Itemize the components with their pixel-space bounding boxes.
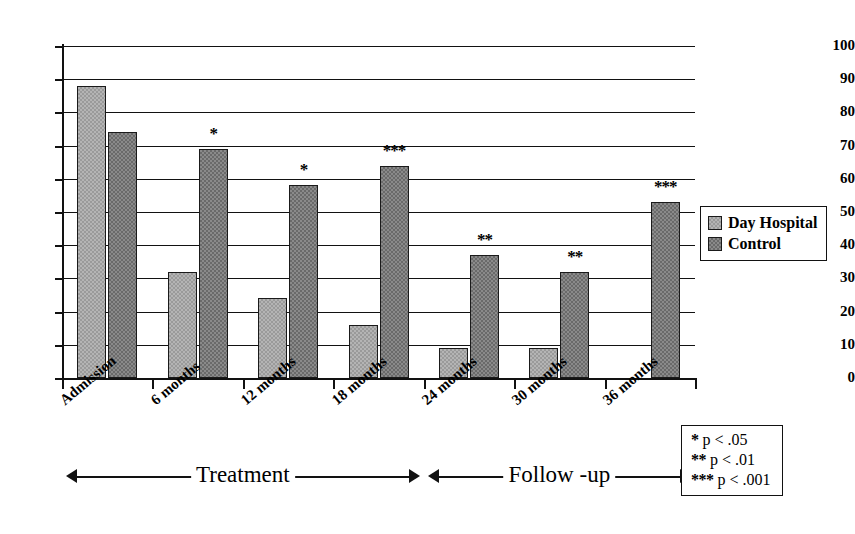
significance-note-row: *** p < .001 [691, 470, 771, 490]
y-axis-tick-label: 20 [803, 304, 855, 319]
gridline [62, 212, 695, 213]
significance-threshold-text: p < .05 [699, 431, 748, 448]
x-axis-tick [333, 378, 335, 389]
gridline [62, 179, 695, 180]
significance-marker: * [209, 125, 217, 142]
y-axis-tick-label: 10 [803, 337, 855, 352]
phase-arrow-treatment: Treatment [66, 463, 420, 489]
bar-chart-figure: 0102030405060708090100 ************ Admi… [0, 0, 855, 534]
phase-arrow-follow-up: Follow -up [428, 463, 691, 489]
x-axis-tick [62, 378, 64, 389]
legend-swatch-icon [708, 216, 722, 230]
arrow-right-icon [409, 469, 420, 483]
bar-day-hospital-admission [77, 86, 106, 378]
bar-control-36-months [651, 202, 680, 378]
gridline [62, 146, 695, 147]
significance-marker: ** [477, 231, 492, 248]
bar-control-12-months [289, 185, 318, 378]
legend-swatch-icon [708, 237, 722, 251]
gridline [62, 278, 695, 279]
x-axis-tick [605, 378, 607, 389]
x-axis-tick [152, 378, 154, 389]
gridline [62, 79, 695, 80]
significance-marker: *** [654, 178, 677, 195]
y-axis-tick-label: 80 [803, 104, 855, 119]
y-axis-tick-label: 100 [803, 38, 855, 53]
significance-marker: ** [567, 248, 582, 265]
significance-threshold-text: p < .01 [706, 451, 755, 468]
bar-control-admission [108, 132, 137, 378]
y-axis-tick-label: 90 [803, 71, 855, 86]
gridline [62, 46, 695, 47]
significance-threshold-text: p < .001 [714, 471, 771, 488]
x-axis-tick [424, 378, 426, 389]
x-axis-line [62, 378, 697, 380]
significance-marker: * [300, 161, 308, 178]
significance-stars: *** [691, 471, 714, 488]
significance-note-box: * p < .05** p < .01*** p < .001 [681, 425, 783, 496]
y-axis-tick-label: 70 [803, 138, 855, 153]
y-axis-tick-label: 0 [803, 370, 855, 385]
chart-legend: Day HospitalControl [700, 206, 827, 261]
significance-note-row: * p < .05 [691, 430, 771, 450]
phase-label: Follow -up [504, 462, 616, 488]
significance-note-row: ** p < .01 [691, 450, 771, 470]
plot-area [62, 46, 695, 378]
legend-item-day-hospital[interactable]: Day Hospital [708, 212, 817, 233]
y-axis-tick-label: 60 [803, 171, 855, 186]
legend-item-control[interactable]: Control [708, 233, 817, 254]
significance-stars: * [691, 431, 699, 448]
gridline [62, 112, 695, 113]
bar-control-6-months [199, 149, 228, 378]
legend-label: Control [728, 235, 781, 252]
significance-marker: *** [383, 142, 406, 159]
significance-stars: ** [691, 451, 706, 468]
gridline [62, 312, 695, 313]
x-axis-tick [514, 378, 516, 389]
bar-control-18-months [380, 166, 409, 378]
x-axis-tick [695, 378, 697, 389]
gridline [62, 245, 695, 246]
gridline [62, 345, 695, 346]
y-axis-tick-label: 30 [803, 270, 855, 285]
legend-label: Day Hospital [728, 214, 817, 231]
x-axis-tick [243, 378, 245, 389]
phase-label: Treatment [191, 462, 295, 488]
